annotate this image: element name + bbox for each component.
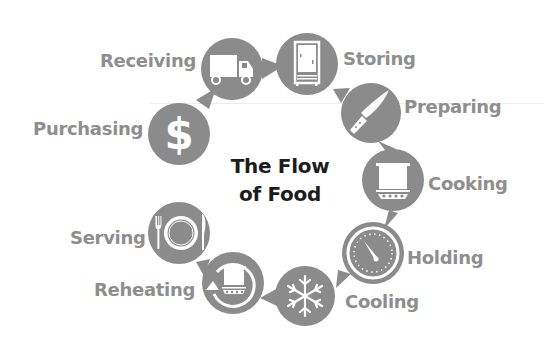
diagram-title: The Flow of Food bbox=[210, 152, 350, 208]
step-storing bbox=[276, 33, 338, 95]
refrigerator-icon bbox=[295, 42, 319, 86]
label-serving: Serving bbox=[70, 227, 146, 248]
step-holding bbox=[342, 222, 404, 284]
step-preparing bbox=[341, 83, 401, 143]
label-storing: Storing bbox=[343, 48, 416, 69]
step-receiving bbox=[201, 38, 263, 100]
label-purchasing: Purchasing bbox=[33, 118, 143, 139]
label-reheating: Reheating bbox=[94, 279, 195, 300]
step-cooking bbox=[362, 149, 424, 211]
step-reheating bbox=[202, 252, 264, 314]
step-serving bbox=[148, 202, 210, 264]
title-line-1: The Flow bbox=[210, 152, 350, 180]
label-cooling: Cooling bbox=[345, 291, 419, 312]
label-cooking: Cooking bbox=[428, 173, 508, 194]
label-preparing: Preparing bbox=[404, 96, 501, 117]
step-cooling bbox=[275, 266, 335, 326]
label-holding: Holding bbox=[407, 247, 483, 268]
label-receiving: Receiving bbox=[100, 50, 196, 71]
arrow-holding-to-cooling bbox=[336, 270, 351, 288]
dollar-icon: $ bbox=[164, 110, 193, 159]
step-purchasing: $ bbox=[148, 103, 210, 165]
title-line-2: of Food bbox=[210, 180, 350, 208]
